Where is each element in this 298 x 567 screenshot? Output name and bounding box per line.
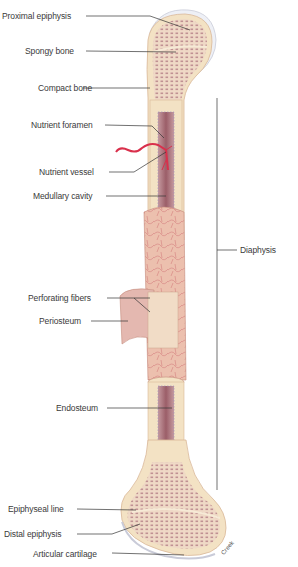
label-epiphyseal-line: Epiphyseal line bbox=[8, 504, 64, 514]
label-perforating-fibers: Perforating fibers bbox=[28, 293, 91, 303]
label-distal-epiphysis: Distal epiphysis bbox=[4, 529, 61, 539]
label-medullary-cavity: Medullary cavity bbox=[33, 191, 92, 201]
label-endosteum: Endosteum bbox=[56, 403, 98, 413]
label-nutrient-vessel: Nutrient vessel bbox=[39, 167, 94, 177]
label-nutrient-foramen: Nutrient foramen bbox=[31, 120, 93, 130]
spongy-bone-proximal bbox=[153, 19, 207, 110]
label-spongy-bone: Spongy bone bbox=[25, 46, 74, 56]
label-periosteum: Periosteum bbox=[39, 316, 81, 326]
label-diaphysis: Diaphysis bbox=[240, 245, 276, 255]
label-compact-bone: Compact bone bbox=[38, 83, 92, 93]
label-proximal-epiphysis: Proximal epiphysis bbox=[2, 11, 71, 21]
label-articular-cartilage: Articular cartilage bbox=[33, 549, 97, 559]
bone-diagram: Proximal epiphysis Spongy bone Compact b… bbox=[0, 0, 298, 567]
